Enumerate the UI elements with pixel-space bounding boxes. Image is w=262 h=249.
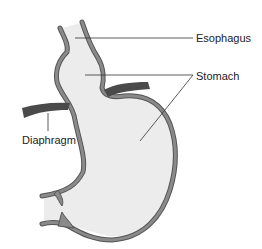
diaphragm-left — [22, 103, 70, 118]
diaphragm-label: Diaphragm — [22, 134, 76, 146]
esophagus-label: Esophagus — [196, 32, 252, 44]
stomach-diagram: Esophagus Stomach Diaphragm — [0, 0, 262, 249]
stomach-label: Stomach — [196, 70, 239, 82]
